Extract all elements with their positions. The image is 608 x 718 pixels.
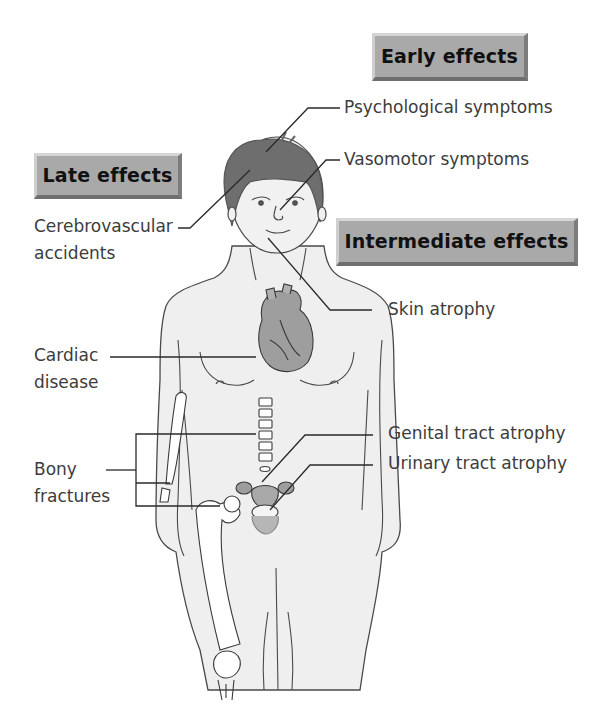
- cardiac-line2: disease: [34, 371, 99, 394]
- vasomotor-symptoms-label: Vasomotor symptoms: [344, 148, 529, 171]
- cardiac-line1: Cardiac: [34, 344, 99, 367]
- menopause-effects-diagram: Early effects Late effects Intermediate …: [0, 0, 608, 718]
- early-effects-badge: Early effects: [372, 33, 528, 81]
- skin-atrophy-label: Skin atrophy: [388, 298, 495, 321]
- early-effects-label: Early effects: [381, 47, 518, 66]
- urinary-tract-atrophy-label: Urinary tract atrophy: [388, 452, 567, 475]
- psychological-symptoms-label: Psychological symptoms: [344, 96, 553, 119]
- cerebrovascular-line2: accidents: [34, 242, 173, 265]
- cerebrovascular-label: Cerebrovascular accidents: [34, 215, 173, 265]
- late-effects-label: Late effects: [43, 166, 173, 185]
- cerebrovascular-line1: Cerebrovascular: [34, 215, 173, 238]
- bony-line2: fractures: [34, 485, 110, 508]
- spine-vertebrae: [259, 398, 272, 472]
- intermediate-effects-label: Intermediate effects: [344, 232, 568, 251]
- bony-fractures-label: Bony fractures: [34, 458, 110, 508]
- genital-tract-atrophy-label: Genital tract atrophy: [388, 422, 566, 445]
- head: [224, 132, 326, 253]
- cardiac-disease-label: Cardiac disease: [34, 344, 99, 394]
- intermediate-effects-badge: Intermediate effects: [336, 218, 578, 266]
- late-effects-badge: Late effects: [34, 153, 182, 199]
- bony-line1: Bony: [34, 458, 110, 481]
